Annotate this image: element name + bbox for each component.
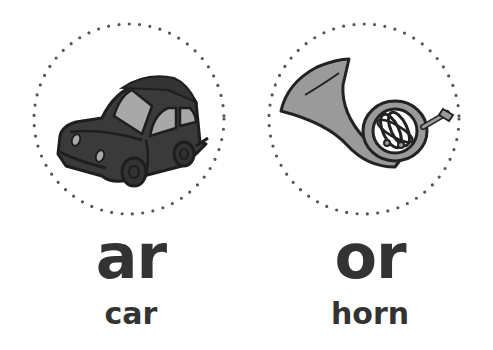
french-horn-icon: [277, 55, 457, 175]
word-label: car: [8, 296, 254, 332]
flashcard-or: or horn: [247, 0, 493, 350]
sound-label: or: [247, 226, 493, 288]
car-icon: [50, 62, 210, 192]
word-label: horn: [247, 296, 493, 332]
flashcard-ar: ar car: [0, 0, 246, 350]
sound-label: ar: [8, 226, 254, 288]
